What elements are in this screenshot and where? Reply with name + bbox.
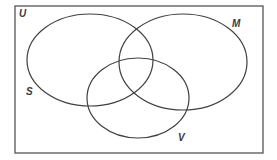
set-s-label: S bbox=[26, 87, 33, 97]
set-v-label: V bbox=[178, 133, 185, 143]
set-m-ellipse bbox=[119, 14, 247, 110]
universe-label: U bbox=[19, 9, 26, 19]
set-m-label: M bbox=[232, 19, 240, 29]
set-v-ellipse bbox=[87, 58, 189, 138]
universe-rectangle bbox=[15, 6, 263, 153]
